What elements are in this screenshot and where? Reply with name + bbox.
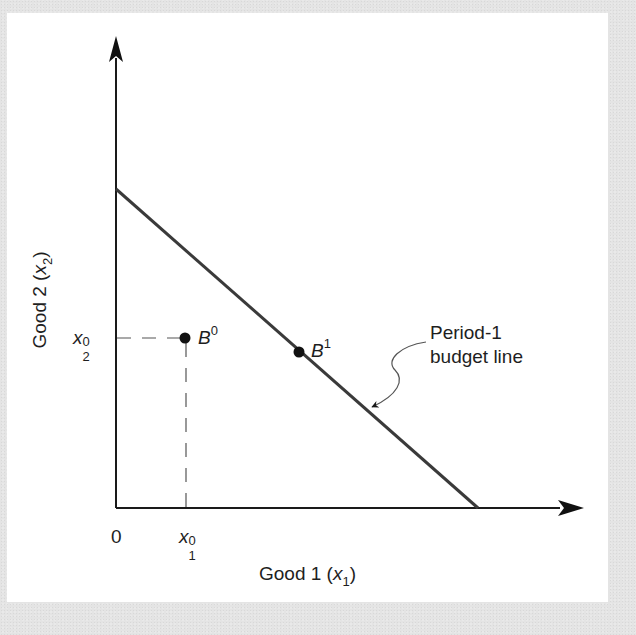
y-axis-label: Good 2 (x2) [29,252,51,349]
x-axis-arrow-icon [558,500,584,516]
callout-arrow [372,342,426,407]
point-B0 [180,333,191,344]
y-axis [109,36,123,508]
x-axis-label: Good 1 (x1) [259,564,356,583]
point-label-B1: B1 [311,341,331,360]
tick-label-x1-0: x01 [179,527,199,546]
tick-label-x2-0: x02 [73,328,93,347]
budget-diagram [0,0,636,635]
budget-line-annotation: Period-1 budget line [430,321,523,369]
point-label-B0: B0 [198,328,218,347]
point-B1 [294,347,305,358]
origin-label: 0 [111,527,122,546]
